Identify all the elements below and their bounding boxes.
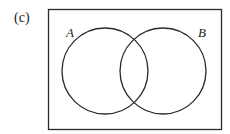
set-b-circle xyxy=(120,28,206,114)
set-a-label: A xyxy=(65,25,74,40)
set-b-label: B xyxy=(198,25,206,40)
venn-diagram: A B xyxy=(0,0,230,134)
universe-rectangle xyxy=(49,10,222,130)
set-a-circle xyxy=(62,28,148,114)
